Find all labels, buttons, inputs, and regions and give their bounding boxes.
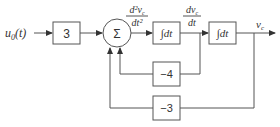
svg-text:dt: dt [188,17,196,28]
svg-text:Σ: Σ [113,27,120,41]
svg-text:dt²: dt² [132,17,144,28]
block-diagram: u0(t) 3 Σ d²vc dt² ∫dt dvc dt ∫dt vc [0,0,280,127]
svg-text:d²vc: d²vc [129,4,144,16]
input-label: u0(t) [5,26,26,42]
summing-junction: Σ [103,19,131,47]
svg-text:−4: −4 [160,68,173,80]
integrator-block-2: ∫dt [209,22,236,44]
integrator-block-1: ∫dt [153,22,180,44]
feedback-line-2-in [110,48,153,108]
feedback-gain-block-neg4: −4 [153,62,180,86]
first-derivative-label: dvc dt [183,4,201,28]
svg-text:∫dt: ∫dt [160,27,174,40]
svg-text:3: 3 [63,27,70,41]
feedback-line-1-out [180,33,200,74]
svg-text:∫dt: ∫dt [216,27,230,40]
feedback-gain-block-neg3: −3 [153,96,180,120]
output-label: vc [256,18,265,32]
svg-text:−3: −3 [160,102,173,114]
feedback-line-1-in [120,48,153,74]
svg-text:dvc: dvc [186,4,198,16]
gain-block-3: 3 [53,22,80,44]
second-derivative-label: d²vc dt² [126,4,148,28]
